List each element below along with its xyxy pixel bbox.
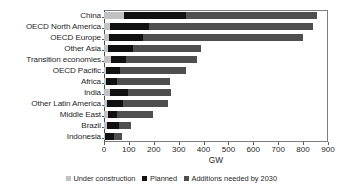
bar-segment-additions-needed-by-2030[interactable]	[133, 45, 201, 52]
y-axis-label-oecd-north-america: OECD North America	[0, 22, 101, 31]
bar-segment-planned[interactable]	[124, 12, 186, 19]
bar-oecd-pacific[interactable]	[104, 67, 328, 78]
bar-segment-additions-needed-by-2030[interactable]	[119, 122, 132, 129]
bar-segment-under-construction[interactable]	[104, 12, 124, 19]
y-axis-label-other-asia: Other Asia	[0, 44, 101, 53]
bar-segment-additions-needed-by-2030[interactable]	[117, 111, 152, 118]
bar-segment-planned[interactable]	[110, 23, 149, 30]
bar-middle-east[interactable]	[104, 111, 328, 122]
bar-segment-under-construction[interactable]	[104, 56, 111, 63]
legend-swatch-planned	[142, 176, 147, 181]
bar-segment-planned[interactable]	[108, 45, 133, 52]
bar-segment-planned[interactable]	[106, 78, 117, 85]
legend-entry-additions-needed-by-2030[interactable]: Additions needed by 2030	[184, 174, 277, 183]
legend-label: Under construction	[73, 174, 135, 183]
chart-legend: Under constructionPlannedAdditions neede…	[0, 172, 343, 184]
bar-segment-planned[interactable]	[110, 89, 127, 96]
y-axis-category-labels: ChinaOECD North AmericaOECD EuropeOther …	[0, 10, 101, 142]
legend-swatch-under-construction	[66, 176, 71, 181]
legend-entry-under-construction[interactable]: Under construction	[66, 174, 136, 183]
y-axis-label-indonesia: Indonesia	[0, 132, 101, 141]
y-axis-label-india: India	[0, 88, 101, 97]
bar-segment-planned[interactable]	[109, 34, 143, 41]
bar-segment-additions-needed-by-2030[interactable]	[186, 12, 317, 19]
bar-segment-additions-needed-by-2030[interactable]	[120, 67, 186, 74]
y-axis-label-other-latin-america: Other Latin America	[0, 99, 101, 108]
bar-segment-additions-needed-by-2030[interactable]	[126, 56, 197, 63]
bar-segment-additions-needed-by-2030[interactable]	[128, 89, 172, 96]
x-tick-label-900: 900	[313, 145, 343, 155]
bar-oecd-europe[interactable]	[104, 34, 328, 45]
bar-segment-additions-needed-by-2030[interactable]	[143, 34, 304, 41]
bar-transition-economies[interactable]	[104, 56, 328, 67]
x-axis-title: GW	[104, 155, 328, 165]
y-axis-label-africa: Africa	[0, 77, 101, 86]
y-axis-label-oecd-pacific: OECD Pacific	[0, 66, 101, 75]
bar-africa[interactable]	[104, 78, 328, 89]
bar-segment-planned[interactable]	[107, 100, 123, 107]
y-axis-label-brazil: Brazil	[0, 121, 101, 130]
y-axis-label-oecd-europe: OECD Europe	[0, 33, 101, 42]
legend-label: Planned	[150, 174, 177, 183]
bar-brazil[interactable]	[104, 122, 328, 133]
bar-segment-additions-needed-by-2030[interactable]	[149, 23, 313, 30]
bars-layer	[104, 10, 328, 142]
bar-segment-planned[interactable]	[107, 122, 118, 129]
bar-segment-planned[interactable]	[106, 67, 120, 74]
bar-segment-planned[interactable]	[105, 133, 114, 140]
legend-swatch-additions	[184, 176, 189, 181]
bar-india[interactable]	[104, 89, 328, 100]
bar-china[interactable]	[104, 12, 328, 23]
y-axis-label-middle-east: Middle East	[0, 110, 101, 119]
bar-segment-planned[interactable]	[108, 111, 117, 118]
y-axis-label-transition-economies: Transition economies	[0, 55, 101, 64]
legend-label: Additions needed by 2030	[192, 174, 277, 183]
bar-chart-figure: ChinaOECD North AmericaOECD EuropeOther …	[0, 0, 343, 189]
y-axis-label-china: China	[0, 11, 101, 20]
bar-segment-planned[interactable]	[111, 56, 126, 63]
bar-segment-additions-needed-by-2030[interactable]	[117, 78, 170, 85]
bar-other-asia[interactable]	[104, 45, 328, 56]
bar-segment-additions-needed-by-2030[interactable]	[123, 100, 168, 107]
bar-other-latin-america[interactable]	[104, 100, 328, 111]
bar-oecd-north-america[interactable]	[104, 23, 328, 34]
legend-entry-planned[interactable]: Planned	[142, 174, 177, 183]
bar-segment-additions-needed-by-2030[interactable]	[114, 133, 122, 140]
